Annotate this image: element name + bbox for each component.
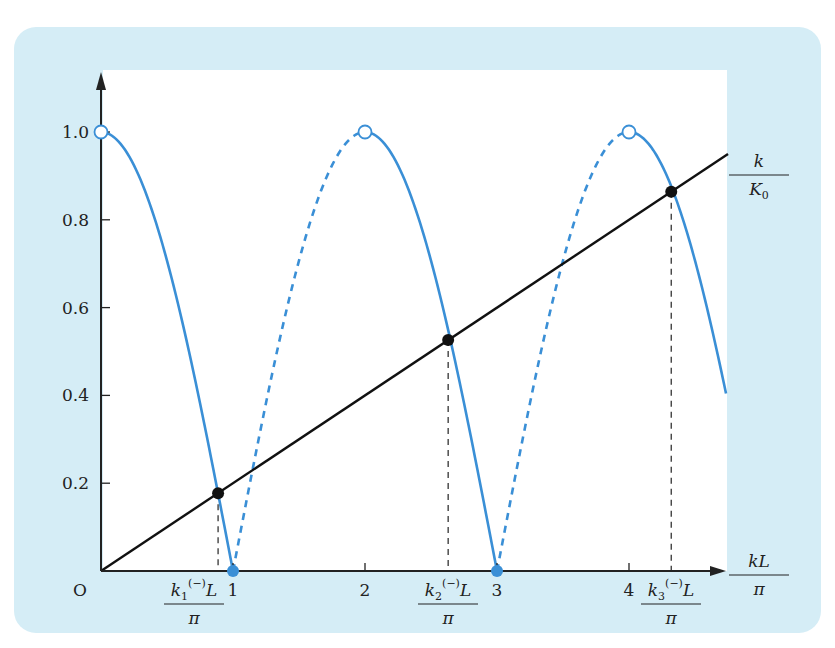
open-point bbox=[95, 126, 108, 139]
math-part: k bbox=[648, 580, 658, 600]
math-part: k bbox=[425, 580, 435, 600]
math-part: π bbox=[441, 608, 454, 628]
intersection-label: k1(−)Lπ bbox=[164, 577, 224, 628]
x-axis-label-numerator: kL bbox=[748, 551, 770, 571]
math-part: k bbox=[754, 151, 764, 171]
intersection-point bbox=[442, 334, 454, 346]
math-part: 2 bbox=[435, 590, 442, 603]
line-label: kK0 bbox=[729, 151, 789, 202]
origin-label: O bbox=[73, 580, 87, 600]
math-part: 1 bbox=[181, 590, 188, 603]
math-part: π bbox=[187, 608, 200, 628]
x-tick-label: 2 bbox=[360, 580, 371, 600]
x-axis-label-denominator: π bbox=[752, 579, 765, 599]
math-part: (−) bbox=[665, 577, 683, 590]
x-axis-label: kLπ bbox=[729, 551, 789, 599]
math-part: 0 bbox=[762, 189, 769, 202]
math-part: L bbox=[682, 580, 694, 600]
y-tick-label: 0.6 bbox=[62, 298, 89, 318]
y-tick-label: 1.0 bbox=[62, 122, 89, 142]
zero-point bbox=[491, 565, 503, 577]
math-part: π bbox=[664, 608, 677, 628]
line-label-denominator: K0 bbox=[748, 179, 769, 202]
intersection-point bbox=[212, 487, 224, 499]
math-part: (−) bbox=[188, 577, 206, 590]
math-part: π bbox=[752, 579, 765, 599]
line-label-numerator: k bbox=[754, 151, 764, 171]
math-part: k bbox=[171, 580, 181, 600]
x-tick-label: 1 bbox=[228, 580, 239, 600]
y-tick-label: 0.8 bbox=[62, 210, 89, 230]
chart: 12340.20.40.60.81.0Ok1(−)Lπk2(−)Lπk3(−)L… bbox=[0, 0, 835, 648]
intersection-label: k2(−)Lπ bbox=[418, 577, 478, 628]
intersection-label-numerator: k3(−)L bbox=[648, 577, 694, 603]
intersection-point bbox=[665, 186, 677, 198]
math-part: (−) bbox=[442, 577, 460, 590]
y-tick-label: 0.2 bbox=[62, 473, 89, 493]
plot-area bbox=[103, 70, 727, 571]
intersection-label-denominator: π bbox=[187, 608, 200, 628]
math-part: 3 bbox=[658, 590, 665, 603]
open-point bbox=[359, 126, 372, 139]
intersection-label-numerator: k1(−)L bbox=[171, 577, 217, 603]
math-part: L bbox=[459, 580, 471, 600]
zero-point bbox=[227, 565, 239, 577]
intersection-label-numerator: k2(−)L bbox=[425, 577, 471, 603]
intersection-label-denominator: π bbox=[441, 608, 454, 628]
intersection-label-denominator: π bbox=[664, 608, 677, 628]
x-tick-label: 4 bbox=[624, 580, 635, 600]
x-tick-label: 3 bbox=[492, 580, 503, 600]
math-part: L bbox=[205, 580, 217, 600]
open-point bbox=[623, 126, 636, 139]
math-part: kL bbox=[748, 551, 770, 571]
y-tick-label: 0.4 bbox=[62, 385, 89, 405]
intersection-label: k3(−)Lπ bbox=[641, 577, 701, 628]
